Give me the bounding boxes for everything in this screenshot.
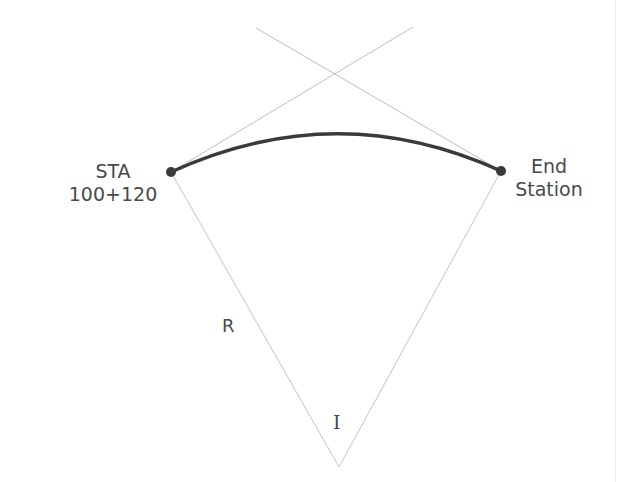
start-station-point [166, 167, 176, 177]
radius-line-left [171, 172, 339, 467]
end-station-label-line1: End [503, 155, 595, 178]
end-station-label-line2: Station [503, 178, 595, 201]
central-angle-label: I [333, 411, 341, 434]
start-station-label-line1: STA [60, 160, 166, 183]
end-station-label: End Station [503, 155, 595, 201]
curve-diagram [0, 0, 623, 482]
radius-line-right [339, 171, 501, 467]
circular-curve-arc [171, 134, 501, 172]
start-station-label-line2: 100+120 [60, 183, 166, 206]
radius-label: R [222, 314, 235, 337]
start-station-label: STA 100+120 [60, 160, 166, 206]
